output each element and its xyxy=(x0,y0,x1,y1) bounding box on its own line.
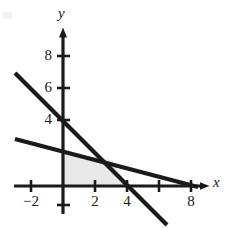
x-tick-label--2: −2 xyxy=(20,194,42,209)
graph-figure: y x −2 2 4 8 8 6 4 xyxy=(0,0,230,228)
x-tick-label-2: 2 xyxy=(84,194,106,209)
x-tick-label-4: 4 xyxy=(116,194,138,209)
x-tick-label-8: 8 xyxy=(180,194,202,209)
y-tick-label-6: 6 xyxy=(36,80,52,95)
x-axis-label: x xyxy=(213,175,220,190)
y-tick-label-4: 4 xyxy=(36,112,52,127)
y-tick-label-8: 8 xyxy=(36,48,52,63)
y-axis-label: y xyxy=(58,6,65,21)
